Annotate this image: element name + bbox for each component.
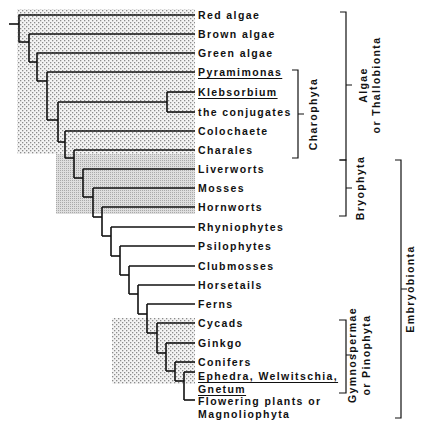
taxon-label-red-algae: Red algae (198, 9, 260, 21)
charophyta-bracket (292, 70, 304, 158)
tree-branches (9, 15, 195, 400)
taxon-label-ginkgo: Ginkgo (198, 337, 243, 349)
taxon-label-hornworts: Hornworts (198, 201, 263, 213)
bryophyta-bracket (339, 160, 352, 216)
taxon-label-charales: Charales (198, 144, 254, 156)
group-label-pinophyta: or Pinophyta (360, 300, 372, 410)
group-label-charophyta: Charophyta (307, 64, 319, 164)
taxon-label-magnoliophyta: Magnoliophyta (198, 408, 290, 420)
taxon-label-psilophytes: Psilophytes (198, 240, 272, 252)
taxon-label-conifers: Conifers (198, 356, 252, 368)
bryophyta-shaded-region (56, 154, 195, 214)
taxon-label-rhyniophytes: Rhyniophytes (198, 221, 284, 233)
taxon-label-klebsorbium: Klebsorbium (198, 86, 278, 98)
group-label-embryobionta: Embryobionta (404, 229, 416, 349)
taxon-label-pyramimonas: Pyramimonas (198, 66, 282, 78)
group-label-thallobionta: or Thallobionta (370, 25, 382, 145)
taxon-label-clubmosses: Clubmosses (198, 260, 274, 272)
taxon-label-mosses: Mosses (198, 182, 245, 194)
taxon-label-the-conjugates: the conjugates (198, 106, 292, 118)
taxon-label-ferns: Ferns (198, 298, 234, 310)
gymnosperm-stipple-region (112, 318, 195, 384)
taxon-label-liverworts: Liverworts (198, 163, 265, 175)
group-label-algae: Algae (357, 35, 369, 135)
taxon-label-flowering-plants: Flowering plants or (198, 395, 321, 407)
taxon-label-cycads: Cycads (198, 317, 244, 329)
taxon-label-colochaete: Colochaete (198, 125, 269, 137)
taxon-label-green-algae: Green algae (198, 47, 274, 59)
taxon-label-brown-algae: Brown algae (198, 28, 276, 40)
taxon-label-gnetum: Gnetum (198, 383, 246, 395)
group-label-gymnospermae: Gymnospermae (346, 300, 358, 410)
taxon-label-ephedra-welwitschia: Ephedra, Welwitschia, (198, 370, 338, 382)
algae-bracket (340, 12, 352, 160)
taxon-label-horsetails: Horsetails (198, 279, 263, 291)
group-label-bryophyta: Bryophyta (354, 138, 366, 238)
